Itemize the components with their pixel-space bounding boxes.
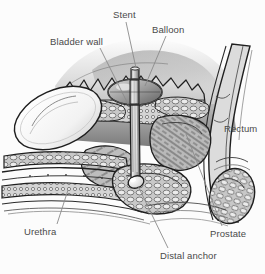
label-balloon: Balloon <box>152 24 184 35</box>
label-distal-anchor: Distal anchor <box>160 250 217 261</box>
label-bladder-wall: Bladder wall <box>50 36 103 47</box>
periprostatic-fascia <box>150 115 211 170</box>
anatomical-illustration: Stent Balloon Bladder wall Rectum Urethr… <box>0 0 265 274</box>
balloon <box>108 79 162 105</box>
label-stent: Stent <box>113 9 136 20</box>
label-rectum: Rectum <box>224 123 257 134</box>
label-urethra: Urethra <box>24 226 57 237</box>
label-prostate: Prostate <box>210 228 246 239</box>
illustration-canvas: Stent Balloon Bladder wall Rectum Urethr… <box>0 0 265 274</box>
